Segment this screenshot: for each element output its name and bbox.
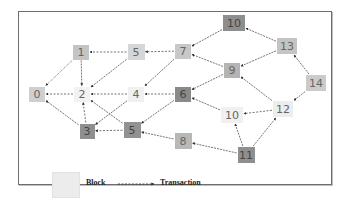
edge-10-to-6 — [192, 98, 220, 110]
block-node-4: 4 — [128, 87, 144, 102]
edge-14-to-12 — [294, 92, 305, 101]
edge-7-to-5 — [146, 51, 175, 52]
edge-11-to-10 — [235, 124, 243, 146]
block-node-3: 3 — [80, 124, 95, 139]
edge-10-to-7 — [192, 30, 222, 46]
block-node-5: 5 — [128, 44, 145, 60]
edge-5-to-2 — [91, 59, 127, 87]
legend-block-label: Block — [86, 178, 106, 187]
block-node-7: 7 — [175, 44, 191, 59]
edge-1-to-2 — [81, 61, 82, 86]
block-node-0: 0 — [29, 87, 45, 102]
edge-12-to-10 — [244, 110, 272, 113]
edge-9-to-7 — [192, 54, 223, 66]
edge-13-to-10 — [246, 28, 276, 41]
edge-8-to-5 — [142, 132, 174, 139]
block-node-8: 8 — [175, 133, 192, 149]
edge-12-to-9 — [241, 77, 272, 101]
block-node-11: 11 — [238, 147, 255, 163]
edge-5-to-3 — [96, 130, 123, 131]
block-node-12: 12 — [273, 101, 293, 117]
block-node-9: 9 — [224, 63, 240, 78]
edge-13-to-9 — [241, 51, 276, 66]
block-node-13: 13 — [277, 38, 297, 54]
block-node-14: 14 — [306, 75, 326, 91]
block-node-1: 1 — [73, 45, 89, 60]
legend-block-swatch — [52, 172, 80, 198]
block-node-10: 10 — [223, 15, 245, 31]
edge-7-to-4 — [145, 59, 174, 86]
block-node-5: 5 — [124, 122, 141, 138]
edge-1-to-0 — [46, 61, 72, 86]
block-node-10: 10 — [221, 107, 243, 123]
block-node-6: 6 — [175, 87, 191, 102]
edge-9-to-6 — [192, 74, 223, 89]
edge-11-to-12 — [253, 118, 276, 146]
edge-3-to-2 — [83, 103, 86, 123]
block-node-2: 2 — [74, 87, 90, 102]
edge-6-to-5 — [142, 100, 175, 123]
edge-3-to-0 — [46, 101, 79, 125]
legend-transaction-label: Transaction — [160, 178, 201, 187]
edge-11-to-8 — [193, 143, 237, 153]
edge-14-to-13 — [294, 55, 309, 74]
edge-5-to-2 — [91, 100, 123, 123]
edge-4-to-3 — [96, 101, 128, 125]
